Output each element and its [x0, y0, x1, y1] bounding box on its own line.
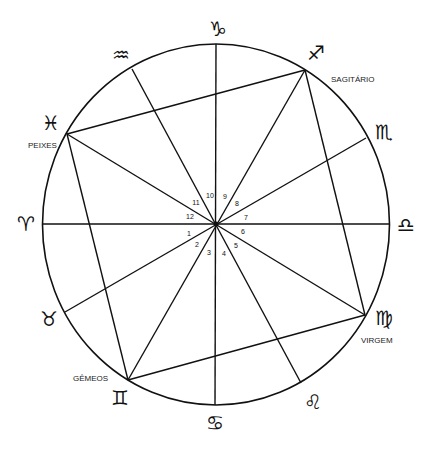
gemini-label: GÊMEOS [73, 374, 108, 383]
house-number-4: 4 [222, 250, 226, 257]
house-number-6: 6 [241, 228, 245, 235]
aquarius-icon: ♒ [112, 43, 130, 67]
astrological-chart: ♈♉♊♋♌♍♎♏♐♑♒♓ GÊMEOSVIRGEMSAGITÁRIOPEIXES… [0, 0, 438, 453]
square-side-sagittarius-virgo [305, 70, 365, 315]
leo-icon: ♌ [304, 390, 322, 414]
house-number-3: 3 [207, 249, 211, 256]
capricorn-icon: ♑ [209, 17, 227, 41]
taurus-icon: ♉ [40, 307, 58, 331]
house-number-1: 1 [187, 230, 191, 237]
pisces-label: PEIXES [28, 141, 57, 150]
square-side-virgo-gemini [128, 315, 365, 380]
house-number-2: 2 [195, 241, 199, 248]
libra-icon: ♎ [397, 213, 415, 237]
scorpio-icon: ♏ [375, 120, 393, 144]
virgo-icon: ♍ [375, 306, 393, 330]
square-side-gemini-pisces [67, 134, 128, 380]
house-number-5: 5 [234, 242, 238, 249]
sagittarius-label: SAGITÁRIO [331, 75, 375, 84]
virgo-label: VIRGEM [361, 336, 393, 345]
house-number-10: 10 [206, 192, 214, 199]
square-side-pisces-sagittarius [67, 70, 305, 134]
sign-labels: GÊMEOSVIRGEMSAGITÁRIOPEIXES [28, 75, 393, 383]
house-number-11: 11 [192, 199, 199, 206]
pisces-icon: ♓ [42, 111, 60, 135]
sagittarius-icon: ♐ [307, 41, 325, 65]
house-number-7: 7 [244, 214, 248, 221]
aries-icon: ♈ [17, 212, 35, 236]
cancer-icon: ♋ [206, 411, 224, 435]
house-number-8: 8 [235, 200, 239, 207]
gemini-icon: ♊ [111, 386, 129, 410]
center-point [214, 222, 219, 227]
house-number-9: 9 [223, 193, 227, 200]
house-number-12: 12 [186, 213, 194, 220]
